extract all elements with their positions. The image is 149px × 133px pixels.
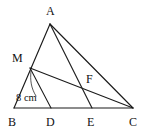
measure-label-8cm: 8 cm [16, 92, 37, 103]
geometry-figure: A B C M D E F 8 cm [0, 0, 149, 133]
segment-ae [50, 24, 92, 108]
vertex-label-d: D [46, 115, 55, 129]
vertex-label-e: E [87, 115, 94, 129]
geometry-canvas: A B C M D E F 8 cm [0, 0, 149, 133]
vertex-label-m: M [12, 51, 23, 65]
segment-ac [50, 24, 133, 108]
vertex-label-b: B [8, 115, 16, 129]
vertex-label-c: C [129, 115, 137, 129]
vertex-label-a: A [46, 4, 55, 18]
segment-mc [30, 68, 133, 108]
vertex-label-f: F [86, 72, 93, 86]
